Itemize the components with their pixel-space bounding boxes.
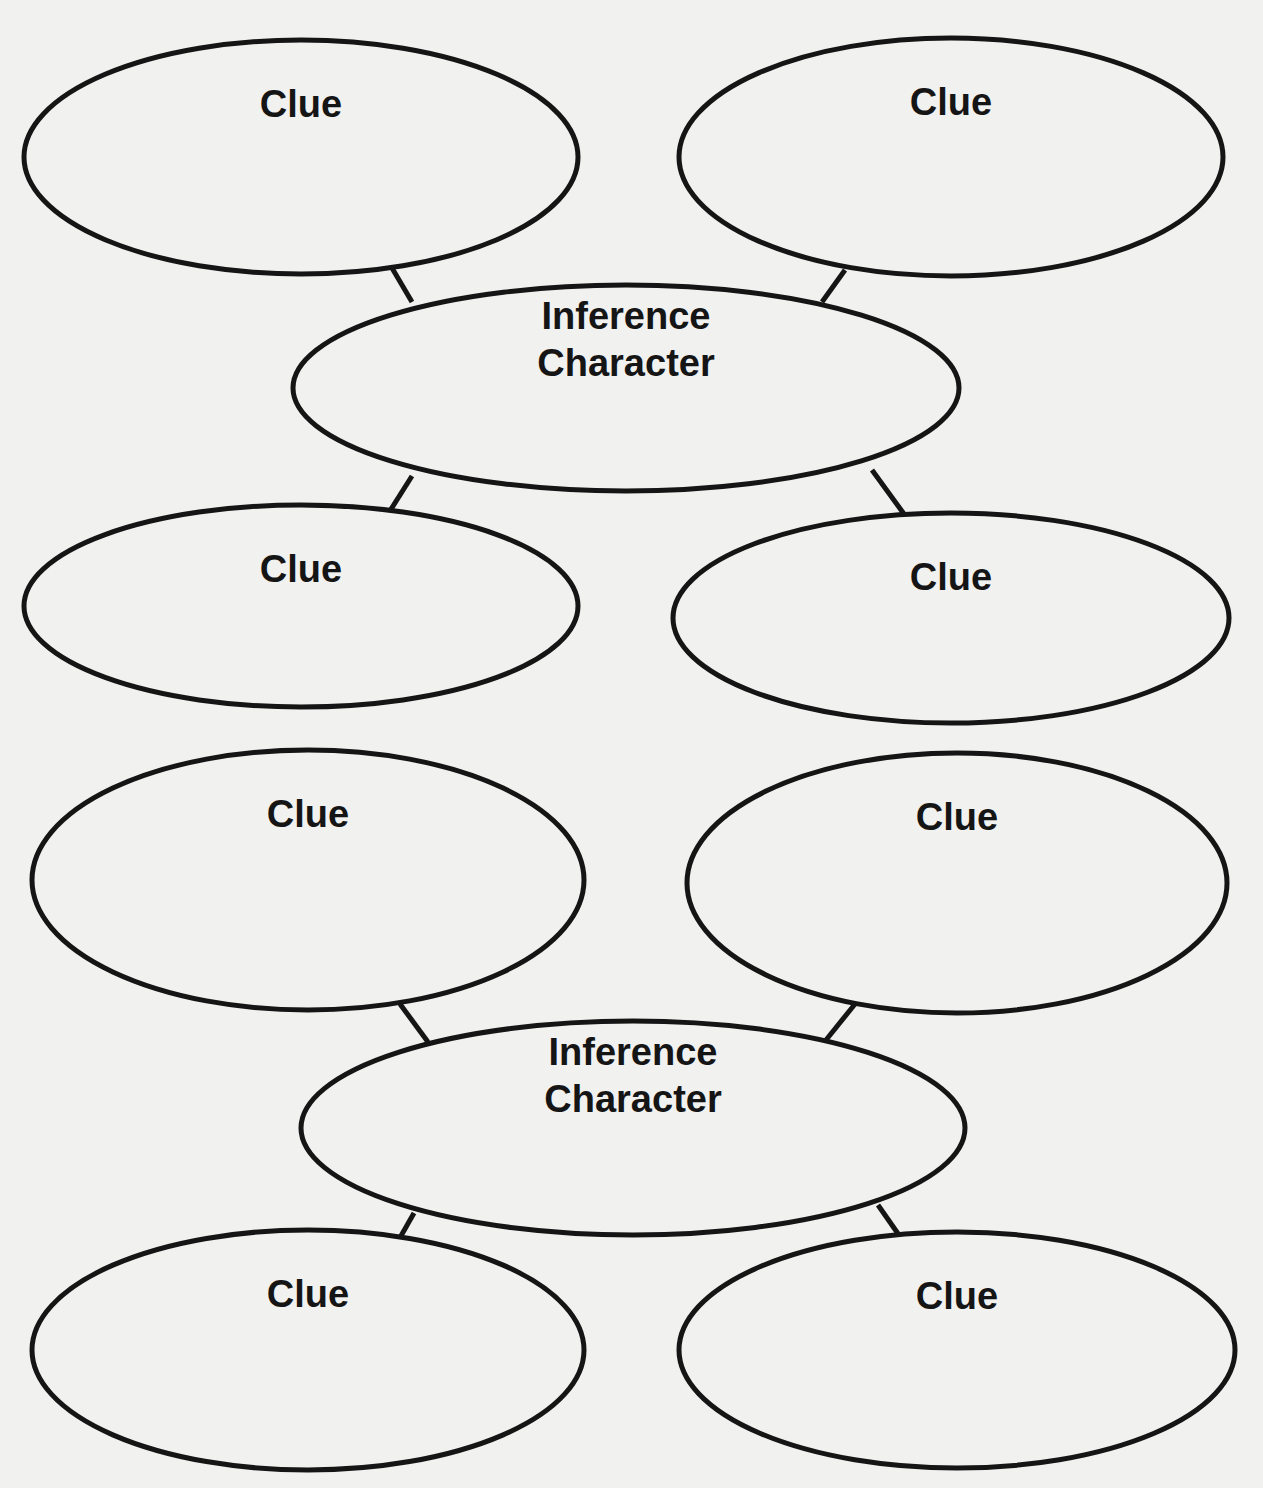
clue-label: Clue (916, 1275, 998, 1317)
diagram-svg: ClueClueClueClueInferenceCharacterClueCl… (0, 0, 1263, 1488)
clue-label: Clue (916, 796, 998, 838)
connector-line (872, 470, 904, 514)
connector-line (392, 268, 412, 302)
clue-oval (32, 1230, 584, 1470)
clue-label: Clue (910, 556, 992, 598)
clue-label: Clue (260, 548, 342, 590)
clue-oval (24, 40, 578, 274)
connector-line (826, 1004, 855, 1040)
inference-label: Inference (542, 295, 711, 337)
clue-oval (679, 1232, 1235, 1468)
clue-oval (673, 513, 1229, 723)
clue-oval (32, 750, 584, 1010)
clue-label: Clue (910, 81, 992, 123)
clue-label: Clue (267, 1273, 349, 1315)
clue-label: Clue (267, 793, 349, 835)
character-label: Character (544, 1078, 722, 1120)
inference-diagram: ClueClueClueClueInferenceCharacterClueCl… (0, 0, 1263, 1488)
clue-oval (24, 505, 578, 707)
connector-line (400, 1004, 428, 1042)
clue-label: Clue (260, 83, 342, 125)
inference-label: Inference (549, 1031, 718, 1073)
clue-oval (687, 753, 1227, 1013)
connector-line (822, 270, 845, 302)
clue-oval (679, 38, 1223, 276)
character-label: Character (537, 342, 715, 384)
